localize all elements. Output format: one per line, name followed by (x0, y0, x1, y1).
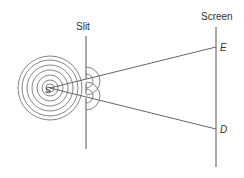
slit-wavelets (86, 67, 100, 110)
source-label: S (45, 85, 51, 95)
screen-label: Screen (201, 11, 233, 22)
slit-label: Slit (76, 21, 90, 32)
point-d-label: D (220, 124, 227, 135)
point-e-label: E (220, 42, 227, 53)
diagram-canvas: S (0, 0, 244, 178)
rays (50, 47, 216, 129)
